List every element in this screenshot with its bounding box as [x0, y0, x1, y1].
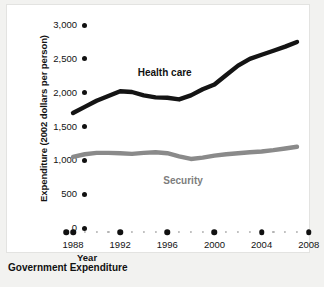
series-label-health-care: Health care: [138, 67, 192, 78]
chart-figure: Expenditure (2002 dollars per person) 05…: [0, 0, 324, 287]
x-axis-tick-label: 1988: [62, 239, 83, 250]
series-lines: [7, 5, 311, 254]
x-axis-tick-label: 2004: [251, 239, 272, 250]
series-label-security: Security: [163, 175, 202, 186]
x-axis-tick-label: 2000: [204, 239, 225, 250]
chart-panel: Expenditure (2002 dollars per person) 05…: [6, 4, 310, 253]
x-axis-tick-label: 1992: [110, 239, 131, 250]
figure-caption: Government Expenditure: [8, 262, 127, 273]
plot-area: [7, 5, 311, 254]
x-axis-tick-label: 2008: [298, 239, 319, 250]
x-axis-tick-label: 1996: [157, 239, 178, 250]
series-line-security: [73, 147, 297, 159]
